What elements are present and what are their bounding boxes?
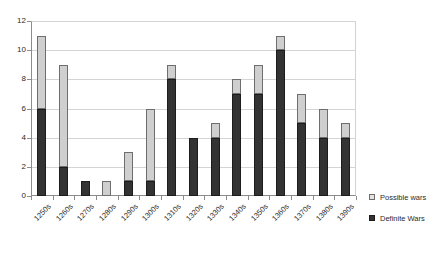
chart-container: 024681012 1250s1260s1270s1280s1290s1300s… [0,0,434,265]
bar-1390s [341,123,350,196]
y-axis-tick-label: 2 [6,163,26,171]
bar-1280s [102,181,111,196]
bar-segment-definite [254,94,263,196]
x-axis-tick-mark [31,196,32,200]
y-axis-tick-label: 6 [6,105,26,113]
x-axis-tick-mark [269,196,270,200]
x-axis-tick-label: 1290s [118,202,139,223]
bar-segment-possible [232,79,241,94]
bar-segment-possible [254,65,263,94]
x-axis-tick-label: 1300s [140,202,161,223]
x-axis-tick-mark [204,196,205,200]
y-axis-tick-label: 12 [6,17,26,25]
y-axis-tick-label: 8 [6,75,26,83]
bars-layer [31,21,356,196]
x-axis-tick-mark [96,196,97,200]
x-axis-tick-label: 1380s [313,202,334,223]
bar-1330s [211,123,220,196]
bar-segment-possible [124,152,133,181]
x-axis-tick-mark [183,196,184,200]
bar-segment-definite [276,50,285,196]
x-axis-tick-mark [74,196,75,200]
bar-1310s [167,65,176,196]
bar-segment-definite [81,181,90,196]
bar-segment-possible [276,36,285,51]
bar-1320s [189,138,198,196]
x-axis-tick-label: 1370s [292,202,313,223]
chart-legend: Possible warsDefinite Wars [369,192,426,234]
legend-item-definite[interactable]: Definite Wars [369,213,426,223]
x-axis-tick-mark [118,196,119,200]
x-axis-tick-label: 1270s [75,202,96,223]
y-axis-tick-label: 10 [6,46,26,54]
bar-1290s [124,152,133,196]
y-axis-tick-label: 4 [6,134,26,142]
x-axis-tick-mark [356,196,357,200]
x-axis-tick-label: 1340s [227,202,248,223]
x-axis-tick-label: 1260s [53,202,74,223]
legend-label: Possible wars [380,193,426,202]
bar-segment-possible [319,109,328,138]
bar-1350s [254,65,263,196]
bar-segment-possible [102,181,111,196]
bar-segment-definite [146,181,155,196]
bar-segment-possible [146,109,155,182]
bar-segment-definite [297,123,306,196]
x-axis-tick-label: 1330s [205,202,226,223]
bar-segment-definite [232,94,241,196]
bar-segment-definite [37,109,46,197]
x-axis-tick-label: 1310s [162,202,183,223]
legend-swatch-definite-icon [369,215,375,221]
bar-1370s [297,94,306,196]
y-axis-tick-label: 0 [6,192,26,200]
bar-segment-possible [211,123,220,138]
bar-segment-definite [59,167,68,196]
x-axis-tick-label: 1350s [248,202,269,223]
bar-1340s [232,79,241,196]
bar-1260s [59,65,68,196]
bar-1270s [81,181,90,196]
bar-segment-definite [189,138,198,196]
x-axis-tick-mark [226,196,227,200]
bar-segment-possible [297,94,306,123]
x-axis-tick-label: 1320s [183,202,204,223]
x-axis-tick-label: 1280s [97,202,118,223]
legend-swatch-possible-icon [369,194,375,200]
bar-1360s [276,36,285,196]
chart-title-remnant [0,0,434,7]
x-axis-tick-label: 1390s [335,202,356,223]
x-axis-tick-label: 1360s [270,202,291,223]
bar-segment-possible [59,65,68,167]
x-axis-tick-mark [53,196,54,200]
x-axis-tick-label: 1250s [32,202,53,223]
legend-item-possible[interactable]: Possible wars [369,192,426,202]
x-axis-tick-mark [291,196,292,200]
bar-segment-definite [319,138,328,196]
x-axis-tick-mark [313,196,314,200]
bar-segment-possible [37,36,46,109]
bar-segment-possible [167,65,176,80]
legend-label: Definite Wars [380,214,425,223]
bar-segment-definite [341,138,350,196]
bar-segment-definite [124,181,133,196]
bar-1250s [37,36,46,196]
x-axis-tick-mark [161,196,162,200]
x-axis-tick-mark [334,196,335,200]
bar-1380s [319,109,328,197]
bar-segment-possible [341,123,350,138]
bar-segment-definite [211,138,220,196]
bar-segment-definite [167,79,176,196]
bar-1300s [146,109,155,197]
x-axis-tick-mark [139,196,140,200]
x-axis-tick-mark [248,196,249,200]
